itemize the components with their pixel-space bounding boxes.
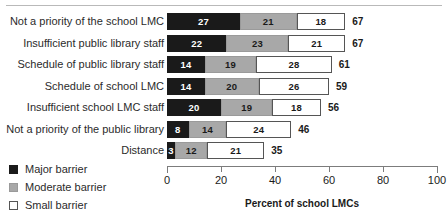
bar-segment-moderate: 20 bbox=[205, 78, 259, 95]
bar-segment-major: 3 bbox=[167, 142, 175, 159]
bar-segment-small: 21 bbox=[288, 35, 345, 52]
x-axis-left-cap bbox=[167, 166, 168, 173]
category-label: Insufficient public library staff bbox=[0, 35, 164, 52]
legend-swatch-small-icon bbox=[9, 201, 18, 210]
legend-label-moderate: Moderate barrier bbox=[25, 181, 106, 193]
bar-segment-major: 8 bbox=[167, 121, 189, 138]
x-axis-tick-label: 0 bbox=[164, 174, 170, 186]
category-label: Not a priority of the school LMC bbox=[0, 13, 164, 30]
bar-segment-moderate: 19 bbox=[205, 56, 256, 73]
bar-segment-major: 14 bbox=[167, 78, 205, 95]
bar-segment-small: 28 bbox=[256, 56, 332, 73]
legend-item-moderate: Moderate barrier bbox=[9, 178, 106, 196]
chart-row: Insufficient public library staff2223216… bbox=[0, 35, 448, 52]
stacked-bar: 141928 bbox=[167, 56, 332, 73]
chart-row: Not a priority of the public library8142… bbox=[0, 121, 448, 138]
x-axis-tick bbox=[221, 166, 222, 172]
stacked-bar-chart: Not a priority of the school LMC27211867… bbox=[0, 0, 448, 217]
category-label: Insufficient school LMC staff bbox=[0, 99, 164, 116]
bar-segment-major: 14 bbox=[167, 56, 205, 73]
category-label: Not a priority of the public library bbox=[0, 121, 164, 138]
bar-segment-moderate: 12 bbox=[175, 142, 207, 159]
stacked-bar: 81424 bbox=[167, 121, 291, 138]
stacked-bar: 142026 bbox=[167, 78, 329, 95]
row-total-label: 35 bbox=[271, 142, 282, 159]
x-axis-right-cap bbox=[437, 166, 438, 173]
legend-label-small: Small barrier bbox=[25, 199, 87, 211]
bar-segment-moderate: 14 bbox=[189, 121, 227, 138]
x-axis-tick-label: 60 bbox=[323, 174, 335, 186]
row-total-label: 61 bbox=[339, 56, 350, 73]
x-axis-tick bbox=[275, 166, 276, 172]
x-axis-tick-label: 40 bbox=[269, 174, 281, 186]
chart-row: Distance3122135 bbox=[0, 142, 448, 159]
bar-segment-small: 24 bbox=[226, 121, 291, 138]
bar-segment-small: 18 bbox=[297, 13, 346, 30]
bar-segment-small: 18 bbox=[272, 99, 321, 116]
row-total-label: 46 bbox=[298, 121, 309, 138]
legend-swatch-moderate-icon bbox=[9, 183, 18, 192]
x-axis-tick-label: 80 bbox=[377, 174, 389, 186]
bar-segment-moderate: 21 bbox=[240, 13, 297, 30]
x-axis-title: Percent of school LMCs bbox=[167, 198, 437, 209]
row-total-label: 67 bbox=[352, 13, 363, 30]
x-axis-tick bbox=[329, 166, 330, 172]
legend-item-major: Major barrier bbox=[9, 160, 106, 178]
chart-row: Insufficient school LMC staff20191856 bbox=[0, 99, 448, 116]
bar-segment-major: 27 bbox=[167, 13, 240, 30]
bar-segment-small: 21 bbox=[207, 142, 264, 159]
x-axis-tick-label: 100 bbox=[428, 174, 446, 186]
chart-row: Not a priority of the school LMC27211867 bbox=[0, 13, 448, 30]
bar-segment-major: 20 bbox=[167, 99, 221, 116]
stacked-bar: 31221 bbox=[167, 142, 264, 159]
category-label: Schedule of public library staff bbox=[0, 56, 164, 73]
row-total-label: 67 bbox=[352, 35, 363, 52]
stacked-bar: 222321 bbox=[167, 35, 345, 52]
bar-segment-small: 26 bbox=[259, 78, 329, 95]
category-label: Schedule of school LMC bbox=[0, 78, 164, 95]
x-axis-tick-label: 20 bbox=[215, 174, 227, 186]
row-total-label: 59 bbox=[336, 78, 347, 95]
legend-swatch-major-icon bbox=[9, 165, 18, 174]
category-label: Distance bbox=[0, 142, 164, 159]
bar-segment-major: 22 bbox=[167, 35, 226, 52]
stacked-bar: 201918 bbox=[167, 99, 321, 116]
x-axis-tick bbox=[383, 166, 384, 172]
top-divider bbox=[6, 5, 442, 6]
bar-segment-moderate: 19 bbox=[221, 99, 272, 116]
x-axis-line bbox=[167, 166, 437, 167]
chart-row: Schedule of public library staff14192861 bbox=[0, 56, 448, 73]
chart-row: Schedule of school LMC14202659 bbox=[0, 78, 448, 95]
stacked-bar: 272118 bbox=[167, 13, 345, 30]
bar-segment-moderate: 23 bbox=[226, 35, 288, 52]
legend-label-major: Major barrier bbox=[25, 163, 87, 175]
chart-legend: Major barrier Moderate barrier Small bar… bbox=[9, 160, 106, 214]
row-total-label: 56 bbox=[328, 99, 339, 116]
legend-item-small: Small barrier bbox=[9, 196, 106, 214]
